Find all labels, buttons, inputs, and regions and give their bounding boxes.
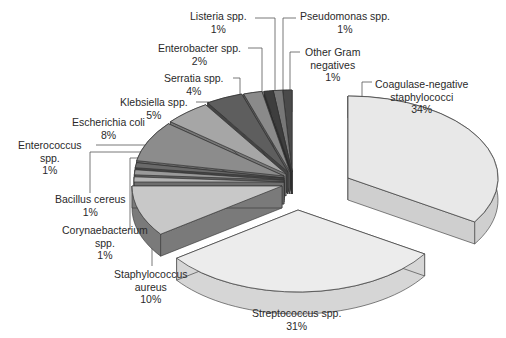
- label-listeria: Listeria spp.1%: [190, 10, 247, 35]
- label-bacillus-cereus: Bacillus cereus1%: [55, 193, 126, 218]
- label-other-gram-negatives: Other Gramnegatives1%: [305, 46, 360, 84]
- label-serratia: Serratia spp.4%: [164, 72, 224, 97]
- label-escherichia-coli: Escherichia coli8%: [72, 116, 145, 141]
- label-streptococcus: Streptococcus spp.31%: [252, 307, 341, 332]
- label-staphylococcus-aureus: Staphylococcusaureus10%: [114, 268, 188, 306]
- label-enterobacter: Enterobacter spp.2%: [158, 42, 241, 67]
- label-enterococcus: Enterococcusspp.1%: [18, 139, 82, 177]
- label-pseudomonas: Pseudomonas spp.1%: [300, 10, 390, 35]
- label-coagulase-negative: Coagulase-negativestaphylococci34%: [375, 78, 468, 116]
- label-corynaebacterium: Corynaebacteriumspp.1%: [62, 224, 148, 262]
- slice-coagulase-negative-staphylococci: [348, 96, 498, 244]
